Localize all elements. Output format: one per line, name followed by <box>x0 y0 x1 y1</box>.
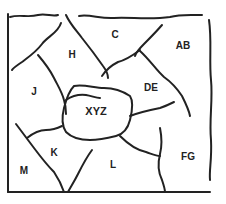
region-label-de: DE <box>144 83 158 93</box>
border-k-top <box>27 126 62 138</box>
top-edge-left <box>10 14 58 17</box>
region-label-xyz: XYZ <box>85 106 106 117</box>
border-k-l <box>68 150 92 192</box>
border-h-xyz <box>66 95 100 100</box>
border-j-h-lower <box>38 55 66 114</box>
right-edge-line <box>209 20 212 180</box>
region-label-m: M <box>20 166 28 176</box>
border-h-c <box>66 15 108 78</box>
border-l-fg <box>159 128 165 192</box>
region-label-l: L <box>110 160 116 170</box>
region-label-c: C <box>111 30 118 40</box>
region-label-k: K <box>50 148 57 158</box>
region-label-fg: FG <box>181 152 195 162</box>
top-edge-right <box>79 15 202 19</box>
border-de-l <box>130 102 174 116</box>
region-label-ab: AB <box>176 41 190 51</box>
border-k-j <box>16 124 64 192</box>
border-j-h <box>12 23 61 70</box>
border-l-de-lower <box>120 136 160 156</box>
region-label-h: H <box>68 50 75 60</box>
region-label-j: J <box>31 87 37 97</box>
